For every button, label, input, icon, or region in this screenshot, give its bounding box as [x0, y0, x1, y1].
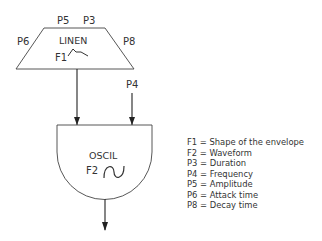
legend-item: P4 = Frequency [187, 169, 304, 180]
p8-input-label: P8 [123, 37, 135, 47]
oscil-unit-shape [57, 125, 152, 199]
f1-function-label: F1 [55, 53, 67, 63]
legend: F1 = Shape of the envelope F2 = Waveform… [187, 137, 304, 211]
p6-input-label: P6 [17, 37, 29, 47]
oscil-unit-label: OSCIL [89, 151, 117, 161]
arrowhead-icon [129, 117, 135, 125]
arrowhead-icon [74, 117, 80, 125]
legend-item: P6 = Attack time [187, 190, 304, 201]
arrowhead-icon [102, 222, 108, 231]
legend-item: P8 = Decay time [187, 200, 304, 211]
p3-input-label: P3 [83, 16, 95, 26]
legend-item: P5 = Amplitude [187, 179, 304, 190]
legend-item: P3 = Duration [187, 158, 304, 169]
legend-item: F1 = Shape of the envelope [187, 137, 304, 148]
legend-item: F2 = Waveform [187, 148, 304, 159]
p5-input-label: P5 [57, 16, 69, 26]
f2-function-label: F2 [86, 166, 98, 176]
p4-input-label: P4 [126, 80, 138, 90]
linen-unit-label: LINEN [59, 36, 87, 46]
